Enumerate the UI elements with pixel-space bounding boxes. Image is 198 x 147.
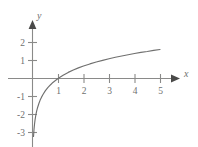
log-function-graph: 1 2 3 4 5 2 1 -1 -2 -3 y x bbox=[0, 0, 198, 147]
y-tick-label-2: 2 bbox=[20, 38, 25, 48]
x-axis-label: x bbox=[183, 68, 189, 79]
x-tick-label-1: 1 bbox=[56, 86, 61, 96]
x-tick-label-3: 3 bbox=[107, 86, 112, 96]
x-axis-arrow-icon bbox=[171, 75, 180, 83]
y-tick-label-neg2: -2 bbox=[17, 110, 25, 120]
y-axis-arrow-icon bbox=[29, 20, 37, 29]
y-tick-label-neg3: -3 bbox=[17, 128, 25, 138]
x-tick-label-4: 4 bbox=[133, 86, 138, 96]
y-tick-label-neg1: -1 bbox=[17, 92, 25, 102]
x-tick-label-5: 5 bbox=[158, 86, 163, 96]
y-tick-label-1: 1 bbox=[20, 56, 25, 66]
y-axis-label: y bbox=[36, 10, 42, 21]
log-curve bbox=[34, 50, 160, 137]
x-tick-label-2: 2 bbox=[82, 86, 87, 96]
plot-area: 1 2 3 4 5 2 1 -1 -2 -3 y x bbox=[0, 0, 198, 147]
